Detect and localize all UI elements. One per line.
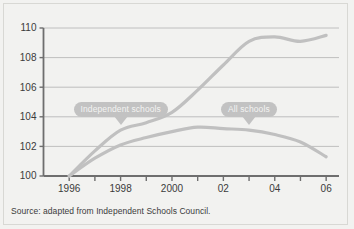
svg-text:110: 110: [21, 22, 37, 33]
svg-text:1998: 1998: [109, 183, 132, 194]
line-chart: 100102104106108110 199619982000020406: [0, 0, 354, 229]
svg-text:106: 106: [20, 82, 37, 93]
callout-pointer-icon: [114, 116, 128, 125]
callout-all-schools: All schools: [221, 102, 277, 117]
chart-figure: 100102104106108110 199619982000020406 In…: [0, 0, 354, 229]
svg-text:104: 104: [20, 111, 37, 122]
svg-text:02: 02: [218, 183, 230, 194]
callout-pointer-icon: [242, 116, 256, 125]
callout-independent-label: Independent schools: [81, 104, 161, 114]
svg-text:108: 108: [20, 52, 37, 63]
svg-text:100: 100: [20, 170, 37, 181]
callout-all-label: All schools: [228, 104, 270, 114]
source-note: Source: adapted from Independent Schools…: [11, 206, 211, 216]
svg-text:1996: 1996: [58, 183, 81, 194]
y-axis-tick-labels: 100102104106108110: [20, 22, 37, 181]
callout-independent-schools: Independent schools: [74, 102, 168, 117]
svg-text:2000: 2000: [161, 183, 184, 194]
svg-text:102: 102: [20, 141, 37, 152]
svg-text:04: 04: [269, 183, 281, 194]
x-axis-tick-labels: 199619982000020406: [58, 183, 332, 194]
svg-text:06: 06: [321, 183, 333, 194]
